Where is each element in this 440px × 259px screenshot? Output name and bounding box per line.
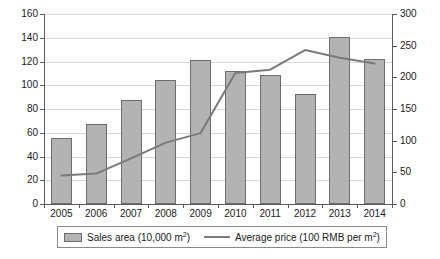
x-tick [392, 204, 393, 208]
x-tick-label-2009: 2009 [184, 209, 218, 219]
line-series [44, 14, 392, 204]
x-tick-label-2011: 2011 [253, 209, 287, 219]
x-tick [183, 204, 184, 208]
x-tick-label-2010: 2010 [218, 209, 252, 219]
x-tick [288, 204, 289, 208]
y-left-tick-label: 40 [0, 152, 38, 162]
y-left-tick [40, 85, 44, 86]
y-left-tick-label: 160 [0, 9, 38, 19]
y-left-tick-label: 60 [0, 128, 38, 138]
legend-item-average-price: Average price (100 RMB per m2) [204, 232, 380, 243]
y-right-tick-label: 50 [400, 167, 440, 177]
y-left-tick [40, 38, 44, 39]
y-left-tick-label: 80 [0, 104, 38, 114]
x-tick [322, 204, 323, 208]
x-tick-label-2013: 2013 [323, 209, 357, 219]
x-tick [253, 204, 254, 208]
y-left-tick [40, 14, 44, 15]
x-tick-label-2005: 2005 [44, 209, 78, 219]
y-right-tick-label: 100 [400, 136, 440, 146]
legend-label-sales-area: Sales area (10,000 m2) [87, 232, 190, 243]
y-right-tick-label: 250 [400, 41, 440, 51]
x-tick [148, 204, 149, 208]
x-tick-label-2012: 2012 [288, 209, 322, 219]
y-right-tick [393, 172, 397, 173]
average-price-line [61, 50, 374, 175]
y-left-tick [40, 157, 44, 158]
y-right-tick [393, 141, 397, 142]
y-left-tick-label: 140 [0, 33, 38, 43]
x-tick [44, 204, 45, 208]
line-swatch-icon [204, 236, 230, 238]
y-right-tick [393, 77, 397, 78]
y-left-tick [40, 109, 44, 110]
legend-item-sales-area: Sales area (10,000 m2) [64, 232, 190, 243]
y-left-tick-label: 100 [0, 80, 38, 90]
y-left-tick [40, 133, 44, 134]
x-axis-line [44, 204, 396, 205]
y-right-tick [393, 46, 397, 47]
chart-container: 020406080100120140160 050100150200250300… [0, 0, 440, 259]
y-right-tick [393, 14, 397, 15]
y-left-tick-label: 120 [0, 57, 38, 67]
legend-label-average-price: Average price (100 RMB per m2) [235, 232, 380, 243]
y-right-tick-label: 300 [400, 9, 440, 19]
y-right-tick-label: 0 [400, 199, 440, 209]
y-left-tick-label: 20 [0, 175, 38, 185]
y-right-tick [393, 204, 397, 205]
bar-swatch-icon [64, 233, 82, 242]
x-tick [114, 204, 115, 208]
x-tick-label-2006: 2006 [79, 209, 113, 219]
y-left-tick [40, 180, 44, 181]
x-tick-label-2007: 2007 [114, 209, 148, 219]
y-left-tick [40, 62, 44, 63]
x-tick [218, 204, 219, 208]
y-axis-left-line [44, 14, 45, 205]
x-tick [357, 204, 358, 208]
y-right-tick-label: 150 [400, 104, 440, 114]
y-right-tick-label: 200 [400, 72, 440, 82]
x-tick-label-2008: 2008 [149, 209, 183, 219]
x-tick [79, 204, 80, 208]
x-tick-label-2014: 2014 [358, 209, 392, 219]
y-right-tick [393, 109, 397, 110]
y-left-tick-label: 0 [0, 199, 38, 209]
chart-legend: Sales area (10,000 m2) Average price (10… [57, 226, 387, 248]
